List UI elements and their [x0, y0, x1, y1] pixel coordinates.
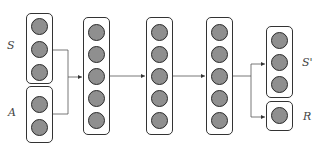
neuron [88, 112, 105, 129]
neuron [31, 119, 48, 136]
state-input-layer [26, 13, 53, 84]
neuron [31, 41, 48, 58]
neuron [271, 107, 288, 124]
hidden-layer-2 [146, 17, 173, 135]
neuron [271, 54, 288, 71]
neuron [211, 112, 228, 129]
neuron [151, 24, 168, 41]
neuron [88, 46, 105, 63]
action-label: A [8, 106, 16, 119]
neuron [151, 46, 168, 63]
neuron [271, 76, 288, 93]
hidden-layer-1 [83, 17, 110, 135]
neuron [88, 90, 105, 107]
neuron [88, 68, 105, 85]
neuron [151, 90, 168, 107]
neuron [271, 32, 288, 49]
state-label: S [7, 39, 15, 52]
neuron [31, 96, 48, 113]
next-state-label: S' [302, 56, 313, 69]
next-state-output-layer [266, 26, 293, 98]
neuron [31, 18, 48, 35]
neuron [211, 68, 228, 85]
action-input-layer [26, 86, 53, 143]
hidden-layer-3 [206, 17, 233, 135]
neuron [31, 64, 48, 81]
reward-output-layer [266, 101, 293, 131]
neuron [211, 24, 228, 41]
neuron [211, 46, 228, 63]
neuron [211, 90, 228, 107]
neuron [151, 68, 168, 85]
neuron [88, 24, 105, 41]
neuron [151, 112, 168, 129]
reward-label: R [303, 110, 311, 123]
